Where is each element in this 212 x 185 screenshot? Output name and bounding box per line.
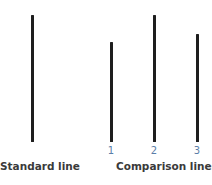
comparison-lines-caption: Comparison lines xyxy=(116,160,212,172)
comparison-line-1-label: 1 xyxy=(104,145,118,156)
comparison-line-2-label: 2 xyxy=(147,145,161,156)
comparison-line-1 xyxy=(110,42,113,142)
comparison-line-3 xyxy=(196,34,199,142)
comparison-line-2 xyxy=(153,15,156,142)
standard-line-caption: Standard line xyxy=(0,160,80,172)
standard-line xyxy=(31,15,34,142)
line-comparison-diagram: Standard line 1 2 3 Comparison lines xyxy=(0,0,212,185)
comparison-line-3-label: 3 xyxy=(190,145,204,156)
